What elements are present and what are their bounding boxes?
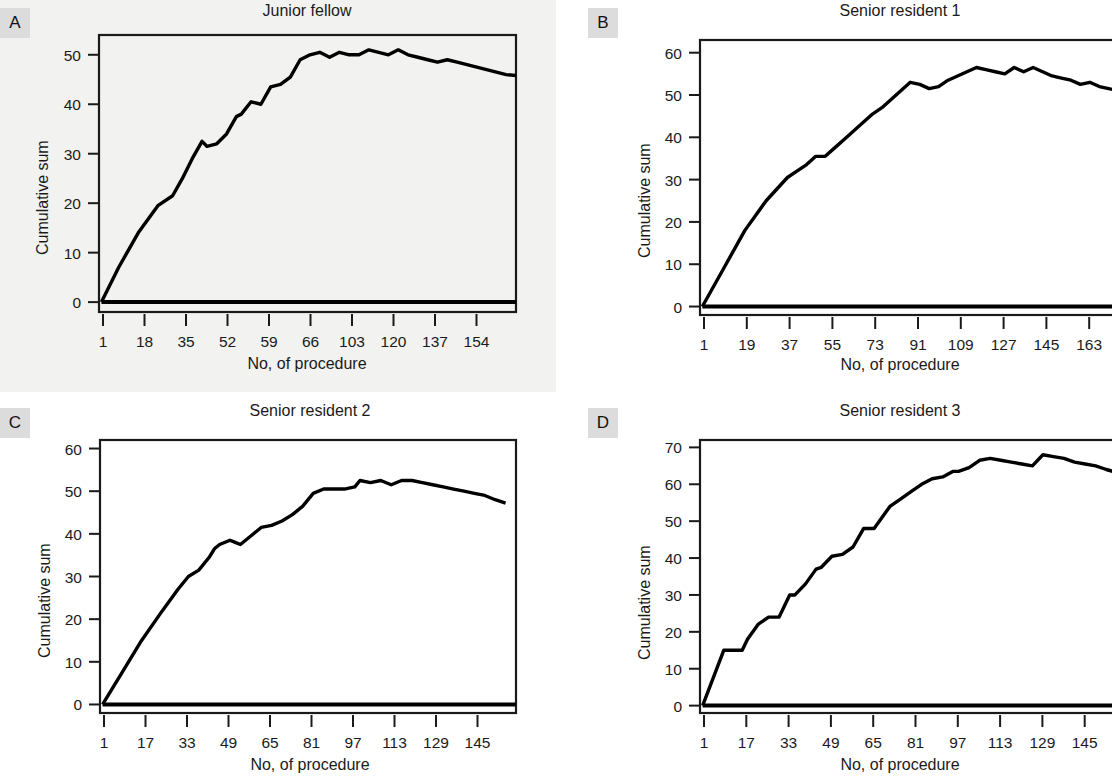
y-tick-label: 0 [673,698,682,715]
plot-area-d: 0102030405060701173349658197113129145 [0,0,1112,783]
x-tick-label: 1 [700,734,709,751]
x-tick-label: 129 [1029,734,1055,751]
plot-frame [700,440,1112,713]
x-tick-label: 65 [865,734,882,751]
y-tick-label: 30 [665,587,683,604]
x-tick-label: 17 [738,734,755,751]
y-tick-label: 20 [665,624,683,641]
x-tick-label: 145 [1072,734,1098,751]
x-tick-label: 97 [949,734,966,751]
cusum-figure: AJunior fellowCumulative sumNo, of proce… [0,0,1112,783]
x-tick-label: 33 [780,734,797,751]
x-tick-label: 113 [988,734,1013,751]
y-tick-label: 70 [665,439,683,456]
cusum-curve [703,455,1112,706]
y-tick-label: 40 [665,550,683,567]
x-tick-label: 81 [907,734,924,751]
y-tick-label: 60 [665,476,683,493]
y-tick-label: 50 [665,513,683,530]
x-tick-label: 49 [822,734,839,751]
y-tick-label: 10 [665,661,683,678]
